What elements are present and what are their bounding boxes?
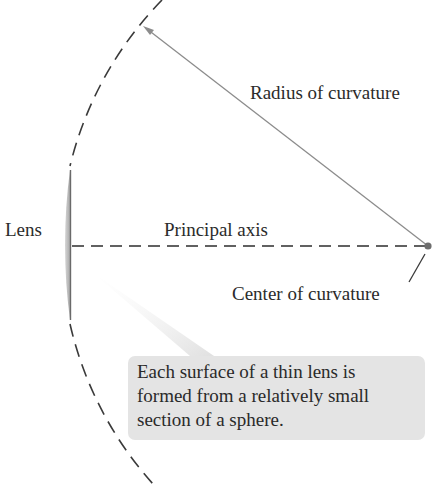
callout-line-3: section of a sphere. <box>137 408 417 432</box>
lens-shape <box>65 170 70 320</box>
center-of-curvature-label: Center of curvature <box>232 283 380 305</box>
principal-axis-label: Principal axis <box>164 219 268 241</box>
center-of-curvature-dot <box>424 242 431 249</box>
callout-box: Each surface of a thin lens is formed fr… <box>128 356 425 440</box>
radius-line <box>147 29 428 246</box>
radius-of-curvature-label: Radius of curvature <box>250 82 400 104</box>
lens-label: Lens <box>5 219 42 241</box>
callout-line-1: Each surface of a thin lens is <box>137 360 417 384</box>
sphere-arc-upper <box>70 0 162 166</box>
callout-line-2: formed from a relatively small <box>137 384 417 408</box>
callout-pointer <box>92 272 214 356</box>
center-leader-line <box>409 254 425 282</box>
